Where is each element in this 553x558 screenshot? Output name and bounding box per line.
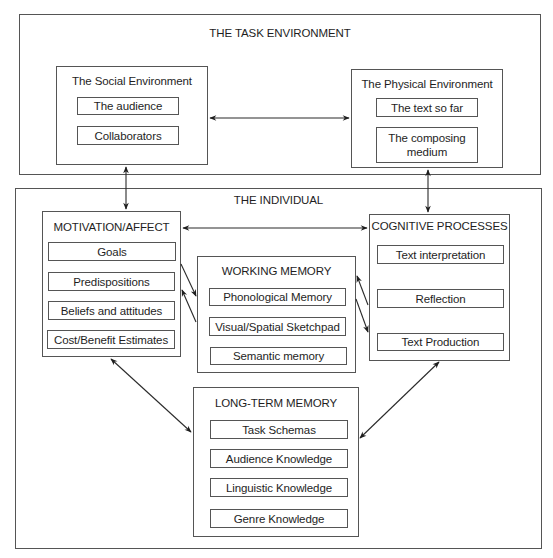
task-environment-title: THE TASK ENVIRONMENT bbox=[20, 26, 540, 40]
item-text-production: Text Production bbox=[377, 333, 504, 351]
item-collaborators: Collaborators bbox=[77, 126, 179, 145]
motivation-affect-title: MOTIVATION/AFFECT bbox=[43, 220, 180, 234]
individual-title: THE INDIVIDUAL bbox=[16, 193, 541, 207]
item-task-schemas: Task Schemas bbox=[210, 420, 348, 439]
cognitive-processes-title: COGNITIVE PROCESSES bbox=[370, 219, 509, 233]
item-visual-spatial-sketchpad: Visual/Spatial Sketchpad bbox=[209, 317, 346, 336]
item-reflection: Reflection bbox=[377, 289, 504, 308]
item-cost-benefit: Cost/Benefit Estimates bbox=[47, 330, 175, 349]
item-predispositions: Predispositions bbox=[48, 272, 175, 291]
item-composing-medium: The composing medium bbox=[376, 127, 478, 163]
item-goals: Goals bbox=[48, 242, 176, 261]
item-text-so-far: The text so far bbox=[376, 98, 478, 117]
item-audience-knowledge: Audience Knowledge bbox=[210, 449, 348, 468]
social-environment-title: The Social Environment bbox=[57, 74, 207, 88]
working-memory-title: WORKING MEMORY bbox=[198, 264, 355, 278]
long-term-memory-title: LONG-TERM MEMORY bbox=[194, 396, 358, 410]
item-beliefs-attitudes: Beliefs and attitudes bbox=[48, 301, 175, 320]
item-text-interpretation: Text interpretation bbox=[377, 245, 504, 264]
item-semantic-memory: Semantic memory bbox=[210, 347, 347, 365]
item-the-audience: The audience bbox=[77, 97, 179, 115]
item-phonological-memory: Phonological Memory bbox=[209, 288, 346, 306]
item-linguistic-knowledge: Linguistic Knowledge bbox=[210, 478, 348, 497]
physical-environment-title: The Physical Environment bbox=[352, 77, 502, 91]
social-environment-box: The Social Environment bbox=[56, 66, 208, 165]
item-genre-knowledge: Genre Knowledge bbox=[210, 509, 348, 528]
